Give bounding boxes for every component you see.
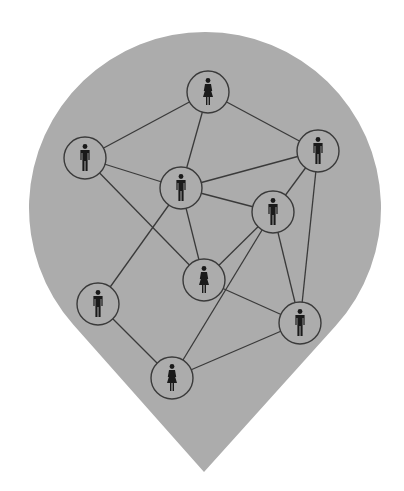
network-diagram-canvas [0, 0, 404, 491]
person-node-H [279, 302, 321, 344]
person-node-E [252, 191, 294, 233]
person-node-I [151, 357, 193, 399]
person-node-D [297, 130, 339, 172]
person-node-C [160, 167, 202, 209]
social-network-pin-diagram [0, 0, 404, 491]
person-node-B [64, 137, 106, 179]
person-node-F [183, 259, 225, 301]
person-node-A [187, 71, 229, 113]
person-node-G [77, 283, 119, 325]
